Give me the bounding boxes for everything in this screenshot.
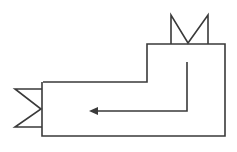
arrowhead-icon [89, 107, 98, 115]
top-valve [171, 15, 208, 44]
diagram-canvas [0, 0, 237, 152]
flow-arrow-line [96, 62, 187, 111]
l-shaped-duct [42, 44, 225, 136]
left-valve [15, 89, 42, 127]
